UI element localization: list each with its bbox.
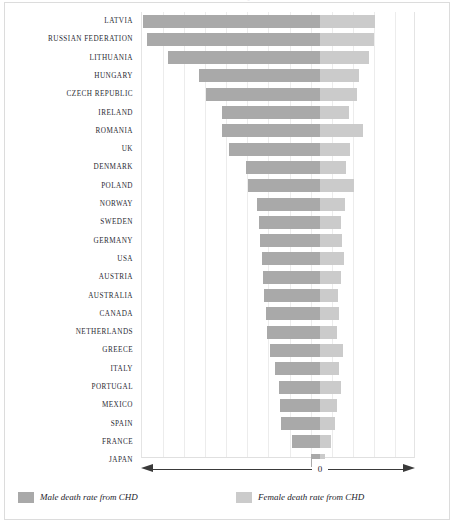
bar-female [320,234,342,247]
bar-female [320,289,338,302]
axis-line [152,469,404,470]
arrow-right-icon [403,464,415,472]
bar-male [257,198,320,211]
bar-row [141,158,415,176]
bar-male [222,106,320,119]
bar-female [320,399,337,412]
category-label: MEXICO [0,396,133,414]
bar-row [141,195,415,213]
bar-male [266,307,320,320]
category-label: AUSTRALIA [0,287,133,305]
bar-female [320,271,341,284]
female-swatch-icon [236,492,252,503]
bar-female [320,381,341,394]
bar-row [141,323,415,341]
axis-zero-label: 0 [312,459,328,479]
bar-row [141,415,415,433]
bar-female [320,88,357,101]
bar-female [320,326,337,339]
bar-female [320,179,354,192]
bar-male [263,271,320,284]
bar-row [141,30,415,48]
category-label: UK [0,140,133,158]
arrow-left-icon [141,464,153,472]
bar-female [320,33,374,46]
value-axis: 0 [141,459,415,481]
bar-male [275,362,320,375]
category-label: ROMANIA [0,122,133,140]
bar-male [264,289,319,302]
bar-row [141,378,415,396]
bar-rows [141,12,415,458]
category-label: FRANCE [0,433,133,451]
chart-page: Death rates from coronary heart disease … [0,0,455,525]
bar-male [248,179,320,192]
bar-female [320,344,343,357]
plot-area [141,12,415,458]
category-label: LATVIA [0,12,133,30]
bar-male [262,252,320,265]
category-label: SWEDEN [0,213,133,231]
bar-row [141,268,415,286]
bar-row [141,12,415,30]
bar-row [141,49,415,67]
bar-female [320,106,349,119]
bar-female [320,252,344,265]
bar-male [259,216,320,229]
bar-row [141,250,415,268]
category-label: DENMARK [0,158,133,176]
bar-row [141,305,415,323]
category-label: LITHUANIA [0,49,133,67]
category-label: AUSTRIA [0,268,133,286]
bar-male [229,143,320,156]
category-axis-labels: LATVIARUSSIAN FEDERATIONLITHUANIAHUNGARY… [0,12,133,458]
bar-female [320,143,350,156]
category-label: ITALY [0,360,133,378]
bar-male [222,124,320,137]
bar-row [141,85,415,103]
category-label: GERMANY [0,232,133,250]
bar-male [267,326,320,339]
bar-male [292,435,320,448]
male-swatch-icon [18,492,34,503]
legend-item-male: Male death rate from CHD [18,488,138,506]
bar-male [281,417,320,430]
bar-female [320,161,346,174]
bar-male [168,51,320,64]
bar-female [320,15,375,28]
bar-row [141,396,415,414]
bar-row [141,232,415,250]
bar-female [320,307,340,320]
category-label: POLAND [0,177,133,195]
category-label: CZECH REPUBLIC [0,85,133,103]
bar-row [141,360,415,378]
legend-item-female: Female death rate from CHD [236,488,364,506]
bar-male [206,88,320,101]
bar-female [320,51,369,64]
bar-row [141,341,415,359]
bar-female [320,124,363,137]
bar-male [279,381,320,394]
bar-row [141,287,415,305]
category-label: CANADA [0,305,133,323]
category-label: HUNGARY [0,67,133,85]
bar-male [260,234,320,247]
bar-row [141,433,415,451]
bar-female [320,69,359,82]
bar-female [320,216,341,229]
bar-female [320,362,340,375]
bar-row [141,140,415,158]
legend: Male death rate from CHD Female death ra… [18,488,438,508]
legend-label-female: Female death rate from CHD [258,492,364,502]
bar-row [141,104,415,122]
bar-female [320,417,335,430]
bar-row [141,67,415,85]
bar-male [147,33,320,46]
bar-male [246,161,320,174]
category-label: NORWAY [0,195,133,213]
category-label: RUSSIAN FEDERATION [0,30,133,48]
category-label: USA [0,250,133,268]
legend-label-male: Male death rate from CHD [40,492,138,502]
chart-title: Death rates from coronary heart disease [0,0,455,2]
bar-female [320,435,331,448]
